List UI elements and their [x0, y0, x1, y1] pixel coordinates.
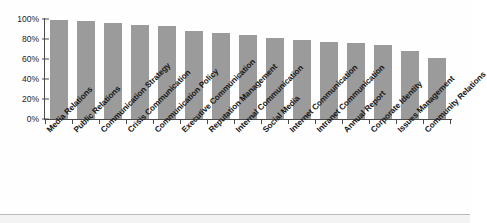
- x-axis-labels: Media RelationsPublic RelationsCommunica…: [0, 126, 470, 221]
- x-axis-tick-mark: [423, 119, 424, 124]
- x-axis-tick-mark: [288, 119, 289, 124]
- x-axis-tick-mark: [261, 119, 262, 124]
- bar: [50, 20, 68, 119]
- y-axis-tick-label: 100%: [17, 14, 45, 24]
- x-axis-tick-mark: [126, 119, 127, 124]
- x-axis-tick-mark: [180, 119, 181, 124]
- x-axis-tick-mark: [99, 119, 100, 124]
- x-axis-tick-mark: [72, 119, 73, 124]
- x-axis-tick-mark: [207, 119, 208, 124]
- x-axis-tick-mark: [396, 119, 397, 124]
- x-axis-tick-mark: [315, 119, 316, 124]
- x-axis-tick-mark: [234, 119, 235, 124]
- x-axis-tick-mark: [369, 119, 370, 124]
- x-axis-tick-mark: [45, 119, 46, 124]
- bottom-shade: [0, 215, 470, 223]
- x-axis-tick-mark: [450, 119, 451, 124]
- x-axis-tick-mark: [342, 119, 343, 124]
- x-axis-tick-mark: [153, 119, 154, 124]
